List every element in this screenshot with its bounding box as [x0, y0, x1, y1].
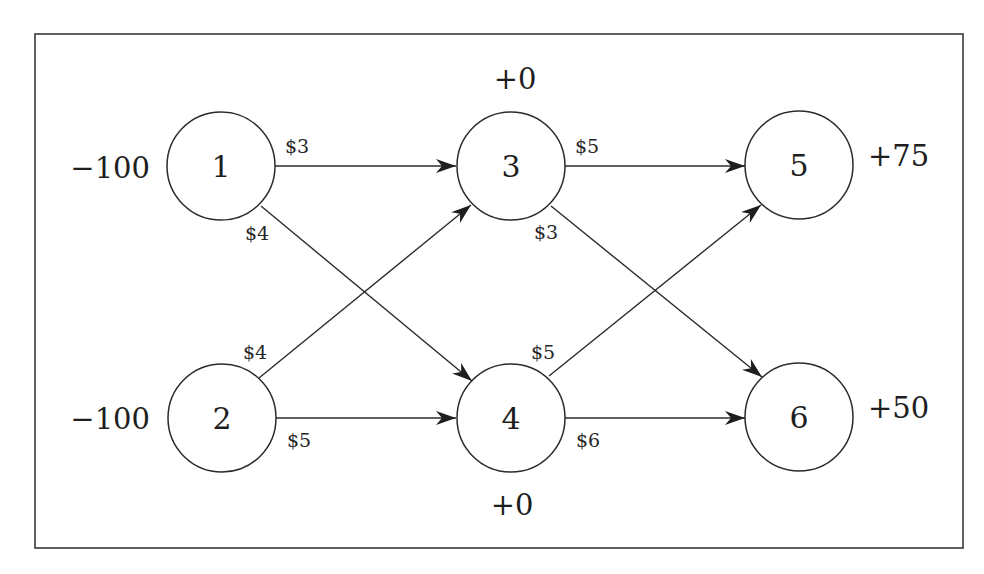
cost-label-edge-2-3: $4	[243, 341, 267, 363]
supply-label-node-3: +0	[494, 62, 537, 96]
supply-label-node-5: +75	[868, 139, 929, 173]
cost-label-edge-2-4: $5	[287, 429, 311, 451]
node-label: 1	[211, 149, 230, 184]
node-6: 6	[745, 363, 853, 471]
node-5: 5	[745, 111, 853, 219]
cost-label-edge-3-6: $3	[534, 221, 558, 243]
node-4: 4	[457, 364, 565, 472]
node-2: 2	[168, 364, 276, 472]
node-3: 3	[457, 112, 565, 220]
network-diagram: 1 2 3 4 5 6 −100 −100 +0 +0 +75 +50 $3 $…	[0, 0, 984, 574]
supply-label-node-2: −100	[70, 402, 150, 436]
node-label: 5	[789, 148, 808, 183]
supply-label-node-1: −100	[70, 151, 150, 185]
supply-label-node-6: +50	[868, 391, 929, 425]
cost-label-edge-1-4: $4	[245, 222, 269, 244]
cost-label-edge-4-5: $5	[531, 341, 555, 363]
node-label: 4	[501, 401, 520, 436]
cost-label-edge-1-3: $3	[285, 135, 309, 157]
supply-label-node-4: +0	[491, 488, 534, 522]
edge-3-6	[551, 206, 762, 377]
node-label: 3	[501, 149, 520, 184]
node-label: 6	[789, 400, 808, 435]
cost-label-edge-3-5: $5	[575, 135, 599, 157]
node-label: 2	[212, 401, 231, 436]
node-1: 1	[167, 112, 275, 220]
cost-label-edge-4-6: $6	[576, 429, 600, 451]
edge-1-4	[261, 206, 472, 381]
